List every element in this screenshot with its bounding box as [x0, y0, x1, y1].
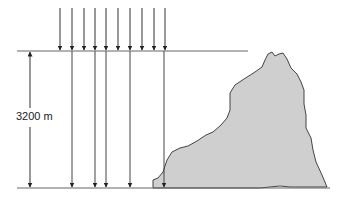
dimension-label: 3200 m	[16, 109, 53, 123]
penetrating-arrows	[72, 51, 164, 187]
mountain-shape	[153, 52, 327, 188]
diagram-canvas	[0, 0, 341, 197]
incoming-arrows	[60, 8, 165, 50]
